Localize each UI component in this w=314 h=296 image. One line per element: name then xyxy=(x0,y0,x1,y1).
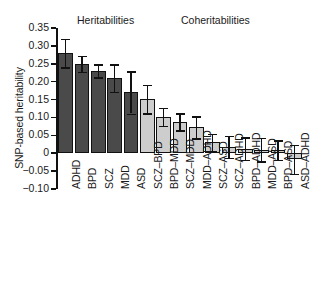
error-bar-cap-upper xyxy=(176,113,185,114)
x-tick-label: ADHD xyxy=(70,160,82,189)
y-tick-mark xyxy=(51,45,56,47)
y-tick-label: −0.10 xyxy=(22,182,49,194)
error-bar-cap-lower xyxy=(176,130,185,131)
y-tick-label: 0.25 xyxy=(29,57,49,69)
y-tick-mark xyxy=(51,27,56,29)
error-bar-cap-upper xyxy=(110,64,119,65)
group-header-heritabilities: Heritabilities xyxy=(77,14,134,26)
x-tick-label: ASD xyxy=(135,168,147,189)
error-bar-stem xyxy=(130,71,131,113)
y-tick-mark xyxy=(51,170,56,172)
error-bar-stem xyxy=(114,64,115,92)
error-bar-cap-upper xyxy=(192,116,201,117)
error-bar-stem xyxy=(179,113,180,130)
bar-group xyxy=(91,28,106,189)
y-tick-label: 0.35 xyxy=(29,21,49,33)
y-tick-label: 0.15 xyxy=(29,93,49,105)
error-bar-cap-upper xyxy=(127,71,136,72)
error-bar-stem xyxy=(196,116,197,138)
y-tick-mark xyxy=(51,81,56,83)
error-bar-stem xyxy=(81,56,82,72)
y-tick-label: 0.20 xyxy=(29,75,49,87)
error-bar-cap-upper xyxy=(94,64,103,65)
x-tick-label: SCZ xyxy=(103,168,115,189)
x-tick-label: BPD–ADHD xyxy=(250,133,262,189)
error-bar-cap-lower xyxy=(78,72,87,73)
y-tick-label: −0.05 xyxy=(22,164,49,176)
error-bar-cap-lower xyxy=(110,92,119,93)
y-tick-mark xyxy=(51,152,56,154)
error-bar-cap-lower xyxy=(94,77,103,78)
error-bar-cap-upper xyxy=(143,85,152,86)
bar xyxy=(75,64,90,153)
error-bar-stem xyxy=(65,39,66,68)
error-bar-cap-lower xyxy=(143,113,152,114)
y-tick-mark xyxy=(51,135,56,137)
x-tick-label: MDD xyxy=(119,165,131,189)
y-tick-label: 0.05 xyxy=(29,128,49,140)
error-bar-stem xyxy=(98,64,99,77)
error-bar-cap-upper xyxy=(159,108,168,109)
x-tick-label: MDD–ADHD xyxy=(201,130,213,189)
snp-heritability-chart: SNP-based heritability Heritabilities Co… xyxy=(0,0,314,296)
error-bar-stem xyxy=(163,108,164,126)
error-bar-cap-lower xyxy=(159,126,168,127)
y-tick-label: 0 xyxy=(43,146,49,158)
x-tick-label: SCZ–BPD xyxy=(152,141,164,189)
y-tick-mark xyxy=(51,63,56,65)
error-bar-cap-lower xyxy=(61,67,70,68)
x-tick-label: BPD xyxy=(86,168,98,189)
x-tick-label: BPD–MDD xyxy=(168,138,180,189)
y-tick-mark xyxy=(51,99,56,101)
error-bar-cap-upper xyxy=(78,56,87,57)
y-tick-mark xyxy=(51,188,56,190)
y-tick-mark xyxy=(51,117,56,119)
x-axis-labels: ADHDBPDSCZMDDASDSCZ–BPDBPD–MDDSCZ–MDDMDD… xyxy=(58,189,303,293)
x-tick-label: SCZ–MDD xyxy=(184,139,196,189)
error-bar-cap-upper xyxy=(61,39,70,40)
x-tick-label: MDD–ASD xyxy=(266,138,278,189)
x-tick-label: SCZ–ADHD xyxy=(233,133,245,189)
x-tick-label: ASD–ADHD xyxy=(299,133,311,189)
x-tick-label: BPD–ASD xyxy=(282,141,294,189)
y-tick-label: 0.30 xyxy=(29,39,49,51)
x-tick-label: SCZ–ASD xyxy=(217,141,229,189)
error-bar-cap-lower xyxy=(127,114,136,115)
y-tick-label: 0.10 xyxy=(29,110,49,122)
bar xyxy=(91,71,106,153)
group-header-coheritabilities: Coheritabilities xyxy=(181,14,250,26)
error-bar-stem xyxy=(147,85,148,114)
